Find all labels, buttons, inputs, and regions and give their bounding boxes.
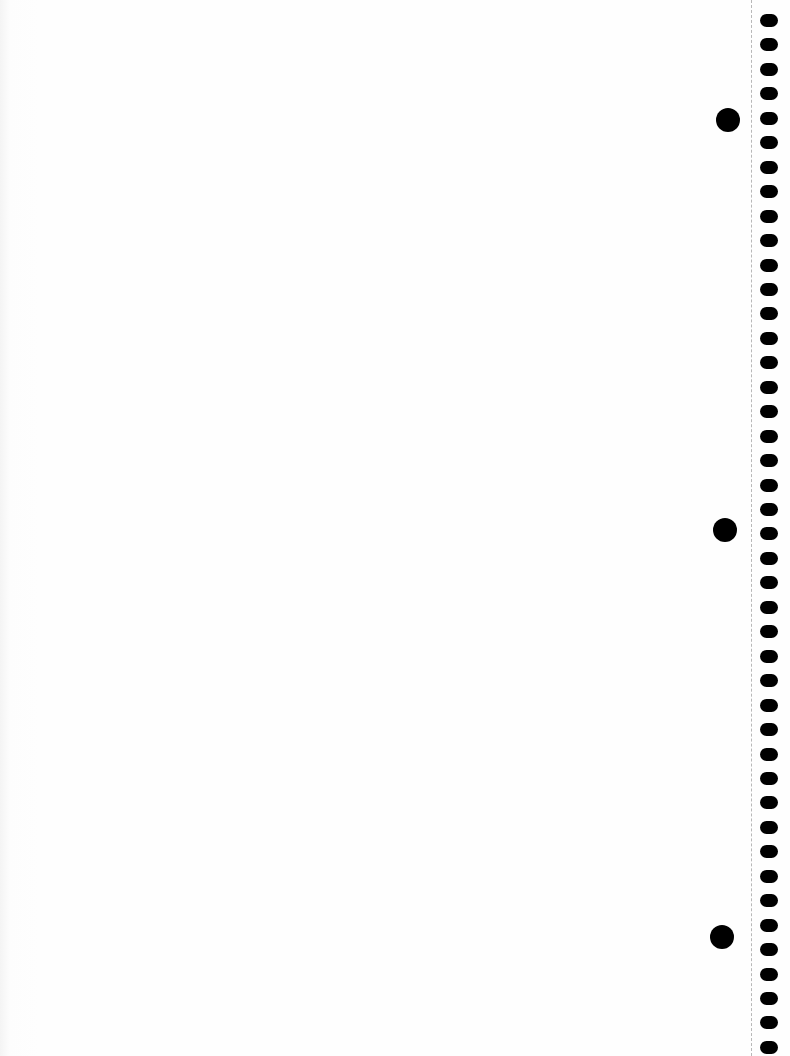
spiral-hole [760,454,778,467]
spiral-hole [760,307,778,320]
spiral-hole [760,1041,778,1054]
spiral-hole [760,1016,778,1029]
spiral-hole [760,601,778,614]
spiral-hole [760,723,778,736]
spiral-hole [760,894,778,907]
spiral-hole [760,234,778,247]
spiral-hole [760,943,778,956]
spiral-hole [760,38,778,51]
spiral-hole [760,527,778,540]
spiral-hole [760,112,778,125]
spiral-hole [760,63,778,76]
spiral-hole [760,699,778,712]
spiral-hole [760,185,778,198]
spiral-hole [760,919,778,932]
spiral-hole [760,625,778,638]
spiral-hole [760,332,778,345]
spiral-hole [760,87,778,100]
spiral-hole [760,674,778,687]
spiral-hole [760,430,778,443]
spiral-hole [760,748,778,761]
spiral-hole [760,259,778,272]
spiral-hole [760,821,778,834]
spiral-hole [760,405,778,418]
spiral-hole [760,161,778,174]
spiral-hole [760,576,778,589]
perforation-line [751,0,752,1056]
notebook-page [0,0,790,1056]
spiral-hole [760,14,778,27]
binder-hole [716,108,740,132]
spiral-hole [760,870,778,883]
binder-hole [713,518,737,542]
spiral-hole [760,210,778,223]
binder-hole [710,925,734,949]
spiral-hole [760,381,778,394]
spiral-hole [760,503,778,516]
spiral-hole [760,650,778,663]
spiral-hole [760,845,778,858]
spiral-hole [760,356,778,369]
spiral-hole [760,796,778,809]
spiral-hole [760,283,778,296]
spiral-hole [760,772,778,785]
spiral-hole [760,968,778,981]
spiral-hole [760,992,778,1005]
spiral-hole [760,552,778,565]
spiral-hole [760,479,778,492]
spiral-hole [760,136,778,149]
